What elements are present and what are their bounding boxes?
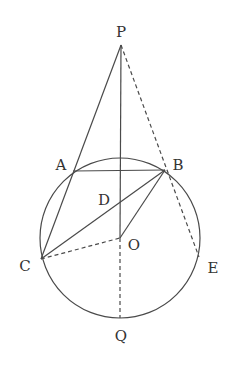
label-e: E xyxy=(208,259,219,277)
line-po xyxy=(120,45,121,238)
line-pe-dashed xyxy=(121,45,199,257)
label-a: A xyxy=(55,156,67,174)
label-c: C xyxy=(19,257,30,275)
radius-ob xyxy=(120,170,165,238)
label-b: B xyxy=(172,156,183,174)
label-o: O xyxy=(128,236,140,254)
line-pc xyxy=(41,45,121,259)
label-d: D xyxy=(98,191,110,209)
radius-oc-dashed xyxy=(41,238,120,259)
chord-ab xyxy=(73,170,165,171)
chord-bc xyxy=(41,170,165,259)
label-p: P xyxy=(116,23,126,41)
label-q: Q xyxy=(115,327,127,345)
geometry-diagram: P A B D O C E Q xyxy=(0,0,238,369)
